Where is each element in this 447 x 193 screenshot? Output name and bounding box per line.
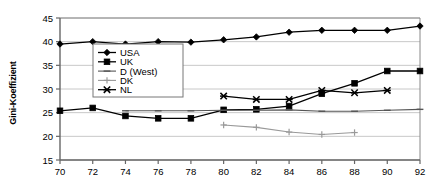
y-axis-tick-label: 20 [42, 131, 53, 142]
y-axis-tick-label: 15 [42, 155, 53, 166]
y-axis-tick-label: 40 [42, 36, 53, 47]
y-axis-tick-label: 30 [42, 84, 53, 95]
data-point-marker [286, 29, 292, 35]
data-point-marker [417, 68, 423, 74]
data-point-marker [319, 27, 325, 33]
x-axis-tick-label: 70 [55, 166, 66, 177]
x-axis-tick-label: 72 [87, 166, 98, 177]
x-axis-tick-label: 88 [349, 166, 360, 177]
data-point-marker [285, 96, 292, 102]
data-point-marker [90, 105, 96, 111]
y-axis-tick-label: 35 [42, 60, 53, 71]
data-point-marker [188, 116, 194, 122]
data-point-marker [384, 87, 391, 93]
x-axis-tick-label: 76 [153, 166, 164, 177]
y-axis-ticks: 15202530354045 [42, 13, 60, 166]
x-axis-tick-label: 74 [120, 166, 131, 177]
y-axis-tick-label: 25 [42, 107, 53, 118]
legend-label: NL [120, 84, 132, 95]
data-point-marker [188, 39, 194, 45]
data-point-marker [351, 27, 357, 33]
series-d-west [122, 109, 423, 111]
x-axis-tick-label: 78 [186, 166, 197, 177]
legend-marker-square-icon [104, 59, 110, 65]
data-point-marker [123, 113, 129, 119]
x-axis-tick-label: 92 [415, 166, 426, 177]
x-axis-tick-label: 82 [251, 166, 262, 177]
series-line [125, 109, 420, 111]
x-axis-tick-label: 80 [218, 166, 229, 177]
chart-legend: USAUKD (West)DKNL [93, 44, 183, 97]
data-point-marker [286, 103, 292, 109]
data-point-marker [351, 129, 357, 135]
data-point-marker [253, 96, 260, 102]
series-line [224, 90, 388, 99]
chart-container: Gini-Koeffizient 15202530354045 70727476… [0, 0, 447, 193]
data-point-marker [417, 23, 423, 29]
series-dk [220, 122, 357, 138]
data-point-marker [384, 27, 390, 33]
data-point-marker [351, 90, 358, 96]
data-point-marker [286, 129, 292, 135]
data-point-marker [220, 93, 227, 99]
y-axis-tick-label: 45 [42, 13, 53, 24]
chart-plot: 15202530354045 707274767880828486889092 … [0, 0, 447, 193]
x-axis-tick-label: 84 [284, 166, 295, 177]
data-point-marker [155, 116, 161, 122]
data-point-marker [384, 68, 390, 74]
data-point-marker [220, 122, 226, 128]
x-axis-tick-label: 86 [317, 166, 328, 177]
x-axis-tick-label: 90 [382, 166, 393, 177]
x-axis-ticks: 707274767880828486889092 [55, 160, 426, 177]
data-point-marker [57, 108, 63, 114]
data-point-marker [253, 124, 259, 130]
data-point-marker [254, 107, 260, 113]
data-point-marker [352, 81, 358, 87]
data-point-marker [253, 34, 259, 40]
